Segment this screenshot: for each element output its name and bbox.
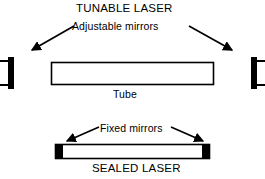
arrow-to-left-adjustable-mirror xyxy=(32,26,74,50)
arrow-to-right-fixed-mirror xyxy=(171,127,203,141)
sealed-laser-body xyxy=(56,145,210,159)
laser-tube xyxy=(52,63,214,85)
adjustable-mirror-left xyxy=(0,57,14,89)
adjustable-mirrors-label: Adjustable mirrors xyxy=(72,21,158,32)
arrow-to-right-adjustable-mirror xyxy=(189,26,232,50)
sealed-laser-title: SEALED LASER xyxy=(92,163,181,175)
tunable-laser-title: TUNABLE LASER xyxy=(76,3,173,15)
tunable-laser-group xyxy=(0,26,265,89)
tube-label: Tube xyxy=(113,89,137,100)
fixed-mirror-left xyxy=(56,145,63,158)
fixed-mirror-right xyxy=(202,145,209,158)
laser-diagram: TUNABLE LASER Adjustable mirrors Tube Fi… xyxy=(0,0,265,179)
adjustable-mirror-right xyxy=(251,57,265,89)
arrow-to-left-fixed-mirror xyxy=(67,127,99,141)
fixed-mirrors-label: Fixed mirrors xyxy=(100,123,163,134)
